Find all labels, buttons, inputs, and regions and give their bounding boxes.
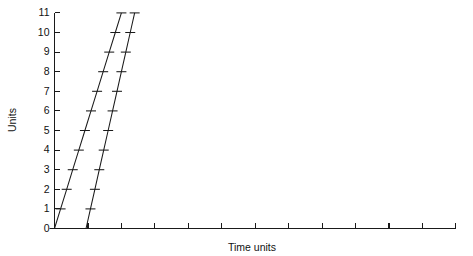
y-tick-label: 6 [44,104,50,116]
chart-background [0,0,473,256]
y-tick-label: 5 [44,124,50,136]
y-tick-label: 8 [44,65,50,77]
y-tick-label: 2 [44,183,50,195]
y-tick-label: 1 [44,202,50,214]
y-tick-label: 9 [44,45,50,57]
y-tick-label: 0 [44,222,50,234]
y-axis-title: Units [6,108,18,132]
y-tick-label: 4 [44,143,50,155]
y-tick-label: 10 [38,26,50,38]
line-chart: 01234567891011 Time units Units [0,0,473,256]
chart-page: 01234567891011 Time units Units [0,0,473,256]
y-tick-label: 11 [39,6,50,18]
x-axis-title: Time units [228,241,276,253]
y-tick-label: 7 [44,85,50,97]
y-tick-label: 3 [44,163,50,175]
